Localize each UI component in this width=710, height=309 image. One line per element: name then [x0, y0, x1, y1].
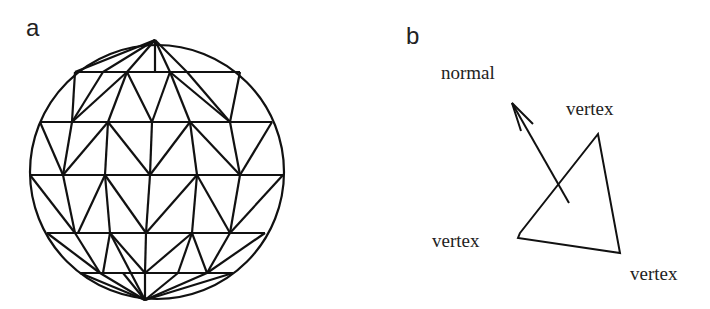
- triangle: [518, 134, 620, 253]
- normal-label: normal: [441, 62, 495, 84]
- figure: a b: [0, 0, 710, 309]
- vertex-label-top: vertex: [566, 98, 613, 120]
- triangle-with-normal: [512, 103, 620, 253]
- diagram-canvas: [0, 0, 710, 309]
- normal-arrow: [512, 103, 569, 203]
- vertex-label-bottom: vertex: [630, 263, 677, 285]
- triangulated-sphere: [30, 40, 284, 300]
- vertex-label-left: vertex: [432, 230, 479, 252]
- arrowhead: [512, 103, 533, 131]
